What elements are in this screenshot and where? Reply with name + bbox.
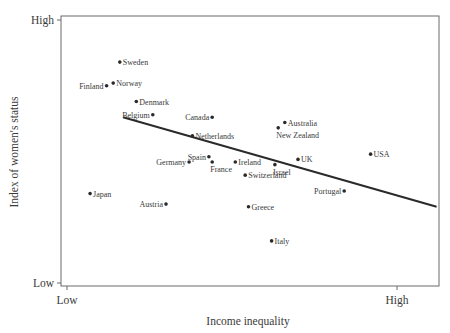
- x-tick-label-low: Low: [56, 294, 78, 306]
- point-marker: [234, 160, 238, 164]
- point-label: Belgium: [122, 111, 150, 120]
- point-marker: [105, 84, 109, 88]
- data-point: Norway: [111, 79, 142, 88]
- data-point: Austria: [139, 200, 167, 209]
- point-marker: [210, 116, 214, 120]
- point-label: Norway: [116, 79, 142, 88]
- point-marker: [135, 100, 139, 104]
- data-point: Germany: [156, 158, 191, 167]
- point-label: France: [210, 165, 232, 174]
- point-label: Portugal: [314, 187, 342, 196]
- point-marker: [111, 81, 115, 85]
- point-label: Greece: [252, 203, 275, 212]
- data-point: Japan: [88, 190, 111, 199]
- data-point: Italy: [270, 237, 289, 246]
- data-point: Spain: [188, 153, 211, 162]
- point-label: Italy: [275, 237, 290, 246]
- point-marker: [296, 158, 300, 162]
- data-point: France: [210, 160, 232, 174]
- data-point: Belgium: [122, 111, 154, 120]
- point-marker: [118, 60, 122, 64]
- y-tick-label-high: High: [31, 14, 54, 27]
- point-marker: [88, 192, 92, 196]
- data-point: Denmark: [135, 98, 170, 107]
- point-label: Sweden: [123, 58, 148, 67]
- point-label: Germany: [156, 158, 186, 167]
- point-marker: [276, 126, 280, 130]
- point-label: New Zealand: [276, 131, 319, 140]
- data-point: Sweden: [118, 58, 148, 67]
- scatter-chart: High Low Low High Income inequality Inde…: [0, 0, 450, 333]
- point-marker: [283, 121, 287, 125]
- data-point: USA: [369, 150, 390, 159]
- point-marker: [191, 134, 195, 138]
- point-marker: [187, 160, 191, 164]
- data-point: New Zealand: [276, 126, 319, 140]
- point-marker: [247, 205, 251, 209]
- data-point: UK: [296, 155, 313, 164]
- x-tick-label-high: High: [386, 294, 409, 307]
- data-point: Netherlands: [191, 132, 234, 141]
- point-label: USA: [374, 150, 390, 159]
- data-point: Finland: [79, 82, 108, 91]
- point-label: Spain: [188, 153, 206, 162]
- point-label: Canada: [185, 113, 209, 122]
- point-marker: [270, 239, 274, 243]
- point-marker: [369, 152, 373, 156]
- y-tick-label-low: Low: [33, 277, 55, 289]
- point-label: Japan: [93, 190, 111, 199]
- point-label: Ireland: [238, 158, 261, 167]
- point-label: Austria: [139, 200, 163, 209]
- point-marker: [273, 163, 277, 167]
- point-label: Finland: [79, 82, 103, 91]
- point-label: Denmark: [139, 98, 169, 107]
- point-marker: [151, 113, 155, 117]
- data-point: Portugal: [314, 187, 346, 196]
- point-marker: [164, 202, 168, 206]
- data-points: SwedenFinlandNorwayDenmarkBelgiumCanadaN…: [79, 58, 390, 246]
- data-point: Ireland: [234, 158, 261, 167]
- point-marker: [342, 189, 346, 193]
- data-point: Greece: [247, 203, 275, 212]
- point-label: UK: [301, 155, 313, 164]
- y-axis-title: Index of women's status: [8, 96, 20, 208]
- data-point: Switzerland: [243, 171, 286, 180]
- point-marker: [210, 160, 214, 164]
- x-axis-title: Income inequality: [206, 315, 290, 328]
- point-marker: [207, 155, 211, 159]
- point-label: Switzerland: [248, 171, 286, 180]
- point-label: Australia: [288, 119, 318, 128]
- point-label: Netherlands: [195, 132, 234, 141]
- data-point: Canada: [185, 113, 214, 122]
- data-point: Australia: [283, 119, 318, 128]
- point-marker: [243, 173, 247, 177]
